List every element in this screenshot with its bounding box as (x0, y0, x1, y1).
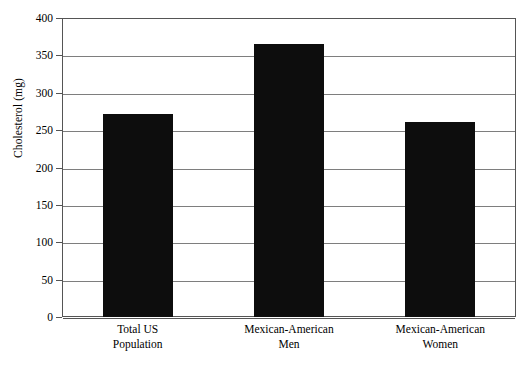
x-category-label: Total USPopulation (62, 322, 213, 352)
y-tick-label: 400 (7, 12, 53, 24)
x-category-label: Mexican-AmericanWomen (365, 322, 516, 352)
x-axis-category-labels: Total USPopulationMexican-AmericanMenMex… (62, 322, 516, 366)
x-label-line-1: Mexican-American (396, 323, 485, 335)
x-label-line-1: Mexican-American (244, 323, 333, 335)
y-tick-label: 250 (7, 124, 53, 136)
bar (254, 44, 324, 317)
y-tick-label: 350 (7, 49, 53, 61)
x-label-line-2: Population (62, 337, 213, 352)
x-label-line-2: Women (365, 337, 516, 352)
y-tick-label: 300 (7, 87, 53, 99)
bar-series (62, 18, 516, 317)
gridline (63, 318, 515, 319)
bar (405, 122, 475, 317)
x-label-line-1: Total US (117, 323, 158, 335)
y-tick-label: 0 (7, 311, 53, 323)
y-tick (56, 317, 62, 318)
x-category-label: Mexican-AmericanMen (213, 322, 364, 352)
x-label-line-2: Men (213, 337, 364, 352)
y-tick-label: 100 (7, 236, 53, 248)
y-tick-label: 150 (7, 199, 53, 211)
bar-chart: Cholesterol (mg) 05010015020025030035040… (0, 0, 530, 368)
y-axis-tick-labels: 050100150200250300350400 (0, 0, 53, 368)
bar (103, 114, 173, 317)
y-tick-label: 200 (7, 162, 53, 174)
y-tick-label: 50 (7, 274, 53, 286)
